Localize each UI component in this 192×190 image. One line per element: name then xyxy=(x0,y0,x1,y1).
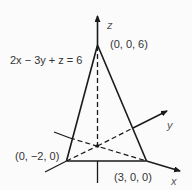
z-axis-label: z xyxy=(107,19,113,31)
y-axis-negative xyxy=(45,161,67,172)
x-axis-negative xyxy=(54,132,70,138)
y-axis-positive xyxy=(133,111,167,128)
x-axis-hidden xyxy=(70,138,147,161)
x-axis-positive xyxy=(147,161,181,171)
y-axis-hidden xyxy=(67,146,98,161)
plane-diagram: z (0, 0, 6) 2x − 3y + z = 6 y (0, −2, 0)… xyxy=(0,0,192,190)
x-axis-label: x xyxy=(171,175,177,187)
y-axis-label: y xyxy=(167,119,173,131)
origin-point xyxy=(96,144,100,148)
y-intercept-label: (0, −2, 0) xyxy=(15,150,59,162)
equation-label: 2x − 3y + z = 6 xyxy=(10,54,82,66)
trace-xz xyxy=(98,45,147,161)
y-axis-hidden-2 xyxy=(98,128,134,146)
z-intercept-label: (0, 0, 6) xyxy=(110,38,148,50)
x-intercept-label: (3, 0, 0) xyxy=(114,171,152,183)
